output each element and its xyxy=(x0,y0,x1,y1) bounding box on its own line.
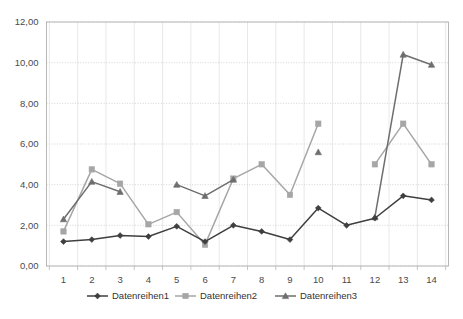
y-axis-tick-label: 10,00 xyxy=(15,57,39,68)
data-point-marker xyxy=(89,167,94,172)
legend-item-label: Datenreihen3 xyxy=(300,290,357,301)
data-point-marker xyxy=(316,121,321,126)
chart-canvas: 0,002,004,006,008,0010,0012,00 123456789… xyxy=(0,0,463,319)
y-axis-tick-label: 2,00 xyxy=(20,220,39,231)
x-axis-tick-label: 8 xyxy=(259,274,264,285)
data-point-marker xyxy=(259,162,264,167)
y-axis-tick-label: 12,00 xyxy=(15,16,39,27)
legend-item-label: Datenreihen2 xyxy=(200,290,257,301)
data-point-marker xyxy=(429,162,434,167)
data-point-marker xyxy=(61,229,66,234)
x-axis-tick-label: 3 xyxy=(117,274,122,285)
x-axis-tick-label: 13 xyxy=(398,274,409,285)
y-axis-tick-label: 8,00 xyxy=(20,98,39,109)
x-axis-tick-label: 2 xyxy=(89,274,94,285)
x-axis-tick-label: 4 xyxy=(146,274,151,285)
chart-legend: Datenreihen1Datenreihen2Datenreihen3 xyxy=(87,290,357,301)
x-axis-tick-label: 11 xyxy=(342,274,352,285)
x-axis-tick-label: 10 xyxy=(313,274,324,285)
x-axis-tick-label: 14 xyxy=(426,274,437,285)
x-axis-tick-label: 9 xyxy=(287,274,292,285)
data-point-marker xyxy=(372,162,377,167)
x-axis-tick-label: 12 xyxy=(370,274,381,285)
plot-background xyxy=(0,0,463,319)
x-axis-tick-label: 5 xyxy=(174,274,179,285)
x-axis-tick-label: 7 xyxy=(231,274,236,285)
data-point-marker xyxy=(183,293,188,298)
data-point-marker xyxy=(146,222,151,227)
y-axis-tick-label: 6,00 xyxy=(20,138,39,149)
data-point-marker xyxy=(287,192,292,197)
legend-item-label: Datenreihen1 xyxy=(112,290,169,301)
x-axis-tick-label: 6 xyxy=(202,274,207,285)
y-axis-tick-label: 4,00 xyxy=(20,179,39,190)
x-axis-tick-label: 1 xyxy=(61,274,66,285)
y-axis-tick-label: 0,00 xyxy=(20,260,39,271)
data-point-marker xyxy=(174,209,179,214)
data-point-marker xyxy=(117,181,122,186)
line-chart: 0,002,004,006,008,0010,0012,00 123456789… xyxy=(0,0,463,319)
data-point-marker xyxy=(401,121,406,126)
